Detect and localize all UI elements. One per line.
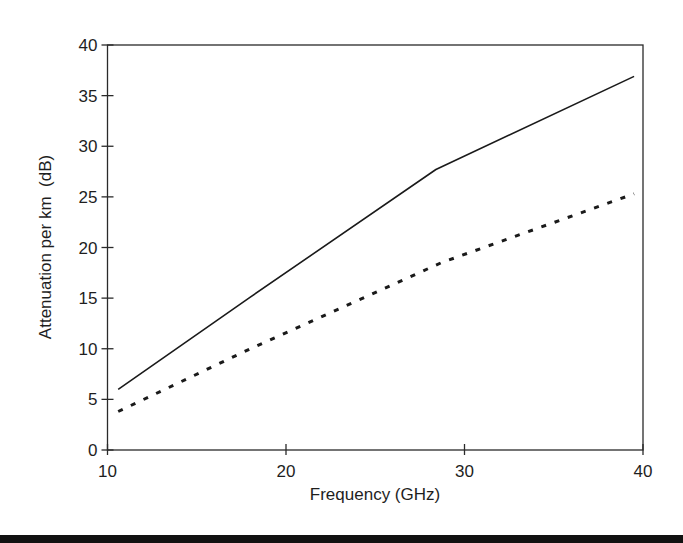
bottom-rule-divider — [0, 535, 683, 543]
y-tick-label: 40 — [79, 36, 98, 55]
x-tick-label: 10 — [98, 462, 117, 481]
y-tick-label: 35 — [79, 87, 98, 106]
plot-border — [108, 45, 644, 450]
x-tick-label: 20 — [277, 462, 296, 481]
y-tick-label: 0 — [88, 441, 97, 460]
x-tick-label: 40 — [634, 462, 653, 481]
y-axis-ticks: 0510152025303540 — [79, 36, 114, 460]
series-dotted-line — [118, 194, 634, 412]
y-tick-label: 5 — [88, 390, 97, 409]
x-axis-label: Frequency (GHz) — [310, 485, 440, 504]
y-tick-label: 30 — [79, 137, 98, 156]
series-solid-line — [118, 76, 634, 389]
y-tick-label: 10 — [79, 340, 98, 359]
x-tick-label: 30 — [455, 462, 474, 481]
data-series — [118, 76, 634, 411]
y-tick-label: 20 — [79, 239, 98, 258]
plot-frame — [108, 45, 644, 450]
y-tick-label: 25 — [79, 188, 98, 207]
y-axis-label: Attenuation per km (dB) — [36, 155, 55, 339]
line-chart: 0510152025303540 10203040 Frequency (GHz… — [0, 0, 683, 535]
y-tick-label: 15 — [79, 289, 98, 308]
